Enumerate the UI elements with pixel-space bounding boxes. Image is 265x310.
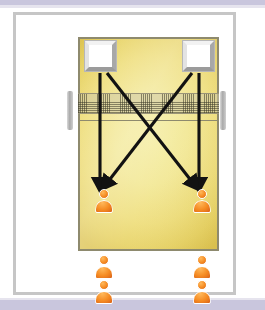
player-body-icon xyxy=(95,291,113,304)
player-queue-right-2[interactable] xyxy=(192,280,212,304)
diagram-page: Volleyball drill diagram: cross and stra… xyxy=(0,0,265,310)
page-band-top xyxy=(0,0,265,5)
player-body-icon xyxy=(95,266,113,279)
page-band-bottom xyxy=(0,300,265,310)
player-body-icon xyxy=(95,200,113,213)
player-head-icon xyxy=(99,280,109,290)
player-body-icon xyxy=(193,266,211,279)
player-head-icon xyxy=(197,255,207,265)
player-queue-right-1[interactable] xyxy=(192,255,212,279)
player-court-right[interactable] xyxy=(192,189,212,213)
player-body-icon xyxy=(193,200,211,213)
figure-frame: Volleyball drill diagram: cross and stra… xyxy=(13,12,236,295)
player-body-icon xyxy=(193,291,211,304)
player-head-icon xyxy=(197,280,207,290)
player-head-icon xyxy=(99,189,109,199)
player-head-icon xyxy=(99,255,109,265)
player-queue-left-2[interactable] xyxy=(94,280,114,304)
player-queue-left-1[interactable] xyxy=(94,255,114,279)
player-head-icon xyxy=(197,189,207,199)
player-court-left[interactable] xyxy=(94,189,114,213)
